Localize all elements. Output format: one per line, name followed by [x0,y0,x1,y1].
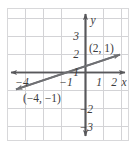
y-tick-label-1: 1 [73,66,79,78]
graph-figure: −4 −1 1 2 3 2 1 −2 −3 x y (2, 1) (−4, −1… [0,0,136,149]
x-tick-label-2: 2 [111,76,117,88]
annotation-point-2-1: (2, 1) [89,42,114,55]
y-tick-label-neg3: −3 [79,121,93,133]
x-tick-label-1: 1 [96,76,102,88]
x-tick-label-neg4: −4 [15,76,29,88]
y-tick-label-2: 2 [73,48,79,60]
x-tick-label-neg1: −1 [59,76,73,88]
y-tick-label-neg2: −2 [79,103,93,115]
coordinate-plane-chart: −4 −1 1 2 3 2 1 −2 −3 x y (2, 1) (−4, −1… [0,0,136,149]
annotation-point-neg4-neg1: (−4, −1) [23,92,61,105]
y-tick-label-3: 3 [72,30,79,42]
x-axis-label: x [120,76,127,88]
y-axis-label: y [89,14,96,27]
